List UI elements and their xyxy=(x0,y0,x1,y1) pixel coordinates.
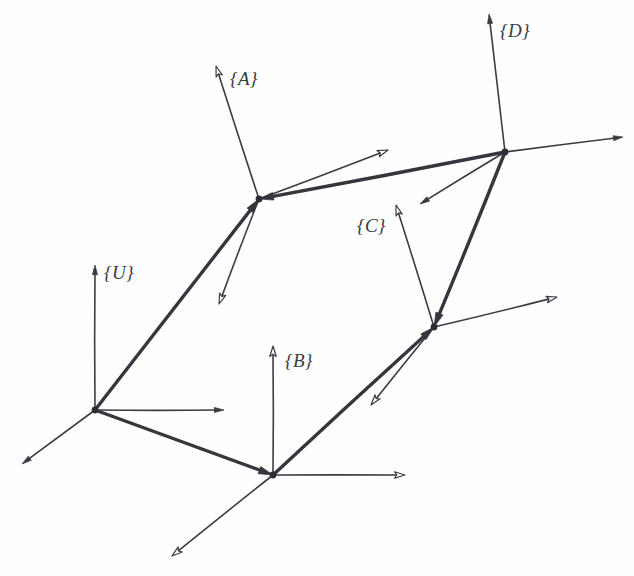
frame-d-z-axis-arrowhead xyxy=(420,197,430,204)
frame-transform-diagram: {U}{A}{B}{C}{D} xyxy=(0,0,634,576)
transform-u-to-a xyxy=(95,199,259,410)
transform-d-to-c-shaft xyxy=(437,152,505,319)
frame-d-axes xyxy=(420,14,623,204)
frame-u-origin-dot xyxy=(92,407,99,414)
frame-graph-canvas xyxy=(0,0,634,576)
frame-u-y-axis-arrowhead xyxy=(92,265,97,275)
frame-u-axes xyxy=(22,265,224,464)
frame-a-x-axis xyxy=(259,152,382,199)
frame-a-z-axis xyxy=(221,199,259,298)
transform-d-to-a xyxy=(259,152,505,200)
transform-u-to-b-shaft xyxy=(95,410,265,472)
frame-d-x-axis xyxy=(505,138,618,152)
frame-label-c: {C} xyxy=(357,215,386,237)
frame-origins-layer xyxy=(92,149,509,479)
frame-c-y-axis xyxy=(398,212,434,327)
frame-u-x-axis-arrowhead xyxy=(214,407,224,412)
frame-b-z-axis xyxy=(177,475,273,552)
transform-arrows-layer xyxy=(95,152,505,475)
transform-u-to-a-shaft xyxy=(95,206,254,410)
frame-c-x-axis xyxy=(434,299,550,327)
frame-axes-layer xyxy=(22,14,623,556)
frame-label-b: {B} xyxy=(285,350,313,372)
frame-label-a: {A} xyxy=(230,68,258,90)
frame-d-x-axis-arrowhead xyxy=(613,136,623,141)
frame-c-origin-dot xyxy=(431,324,438,331)
frame-a-axes xyxy=(216,66,388,304)
frame-a-y-axis xyxy=(218,72,259,199)
frame-label-u: {U} xyxy=(104,262,134,284)
frame-d-origin-dot xyxy=(502,149,509,156)
frame-b-origin-dot xyxy=(270,472,277,479)
transform-d-to-c xyxy=(434,152,505,327)
frame-c-axes xyxy=(371,205,557,405)
frame-d-y-axis-arrowhead xyxy=(488,14,493,24)
transform-u-to-b xyxy=(95,410,273,475)
transform-d-to-a-shaft xyxy=(268,152,505,197)
frame-a-origin-dot xyxy=(256,196,263,203)
frame-label-d: {D} xyxy=(500,20,530,42)
frame-u-z-axis xyxy=(26,410,95,461)
